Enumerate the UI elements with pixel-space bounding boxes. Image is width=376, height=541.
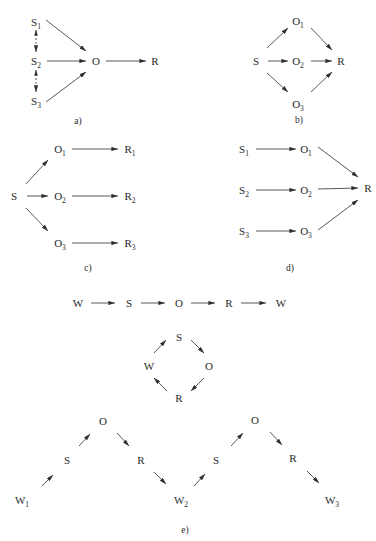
arrow-edge (42, 475, 53, 486)
node-s1: S1 (31, 16, 41, 31)
arrow-edge (26, 208, 48, 231)
panel-c: SO1R1O2R2O3R3c) (11, 143, 136, 274)
node-o1: O1 (292, 15, 304, 30)
node-r-1: R (137, 454, 145, 466)
node-w-c: W (144, 360, 155, 372)
arrow-edge (270, 432, 282, 445)
node-o1: O1 (54, 143, 66, 158)
diagram-canvas: S1S2S3ORa) O1SO2RO3b) SO1R1O2R2O3R3c) S1… (0, 0, 376, 541)
node-s1: S1 (239, 143, 249, 158)
node-s-a: S (126, 297, 132, 309)
arrow-edge (318, 147, 358, 177)
panel-a: S1S2S3ORa) (31, 16, 159, 127)
arrow-edge (154, 340, 166, 353)
panel-caption-d: d) (286, 263, 294, 274)
arrow-edge (318, 200, 358, 230)
node-s3: S3 (31, 95, 41, 110)
panel-d: S1O1S2O2RS3O3d) (239, 143, 372, 274)
node-w3: W3 (325, 494, 339, 509)
node-s2: S2 (31, 55, 41, 70)
node-w2: W2 (174, 494, 188, 509)
node-s-c: S (176, 331, 182, 343)
arrow-edge (267, 28, 288, 48)
node-o2: O2 (292, 55, 304, 70)
arrow-edge (194, 474, 205, 486)
node-s: S (253, 55, 259, 67)
node-o-c: O (205, 360, 213, 372)
node-o: O (92, 55, 100, 67)
node-w-a: W (73, 297, 84, 309)
node-r-c: R (175, 392, 183, 404)
node-s-2: S (213, 454, 219, 466)
node-r2: R2 (124, 190, 135, 205)
panel-e: WSORWSWOROSRW1W2SORW3e) (15, 297, 339, 536)
arrow-edge (191, 340, 204, 353)
arrow-edge (154, 378, 167, 391)
arrow-edge (311, 28, 332, 50)
arrow-edge (267, 73, 288, 92)
panel-caption-a: a) (74, 116, 81, 127)
node-o1: O1 (300, 143, 312, 158)
node-r-a: R (225, 297, 233, 309)
node-s: S (11, 190, 17, 202)
node-w1: W1 (15, 494, 29, 509)
node-o3: O3 (54, 237, 66, 252)
node-s3: S3 (239, 225, 249, 240)
arrow-edge (46, 72, 86, 102)
arrow-edge (311, 72, 332, 92)
node-r: R (151, 55, 159, 67)
panel-caption-c: c) (84, 263, 91, 274)
node-o-2: O (251, 414, 259, 426)
panel-caption-b: b) (295, 115, 303, 126)
node-o3: O3 (292, 98, 304, 113)
node-s-1: S (64, 454, 70, 466)
node-w-b: W (276, 297, 287, 309)
arrow-edge (307, 471, 319, 483)
arrow-edge (318, 188, 358, 189)
arrow-edge (26, 160, 48, 184)
node-o3: O3 (300, 225, 312, 240)
panel-caption-e: e) (181, 525, 188, 536)
panel-b: O1SO2RO3b) (253, 15, 345, 126)
arrow-edge (191, 378, 204, 391)
node-o-1: O (99, 415, 107, 427)
node-o2: O2 (300, 184, 312, 199)
node-o2: O2 (54, 190, 66, 205)
node-r1: R1 (124, 143, 135, 158)
node-r: R (364, 182, 372, 194)
arrow-edge (231, 433, 243, 446)
node-r-2: R (289, 452, 297, 464)
arrow-edge (117, 433, 129, 446)
node-s2: S2 (239, 184, 249, 199)
node-r3: R3 (124, 237, 135, 252)
arrow-edge (154, 472, 166, 484)
node-r: R (337, 55, 345, 67)
node-o-a: O (175, 297, 183, 309)
arrow-edge (79, 434, 90, 446)
arrow-edge (46, 20, 86, 51)
